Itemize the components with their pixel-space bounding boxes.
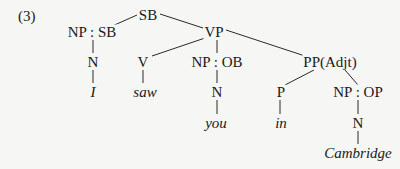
edge-sb-vp bbox=[160, 14, 203, 28]
node-p: P bbox=[276, 85, 286, 100]
node-sb: SB bbox=[138, 8, 158, 23]
node-pp-adjt: PP(Adjt) bbox=[302, 55, 357, 70]
node-n-object: N bbox=[211, 85, 224, 100]
edge-vp-pp bbox=[226, 30, 305, 56]
word-in: in bbox=[274, 116, 288, 131]
word-cambridge: Cambridge bbox=[323, 146, 393, 161]
word-saw: saw bbox=[132, 85, 157, 100]
node-n-prep-object: N bbox=[352, 116, 365, 131]
syntax-tree-diagram: (3) SB NP : SB VP N V NP : OB bbox=[0, 0, 400, 169]
edge-pp-p bbox=[285, 70, 314, 85]
node-v: V bbox=[137, 55, 150, 70]
node-np-op: NP : OP bbox=[332, 85, 383, 100]
node-n-subject: N bbox=[87, 55, 100, 70]
node-np-sb: NP : SB bbox=[67, 25, 118, 40]
node-vp: VP bbox=[203, 25, 224, 40]
word-i: I bbox=[90, 85, 97, 100]
node-np-ob: NP : OB bbox=[190, 55, 243, 70]
word-you: you bbox=[204, 116, 228, 131]
